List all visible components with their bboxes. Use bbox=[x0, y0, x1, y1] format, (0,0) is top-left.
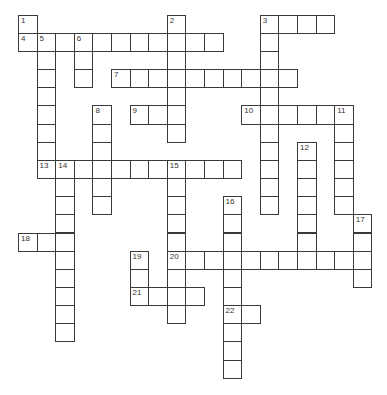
crossword-cell[interactable] bbox=[55, 287, 75, 306]
crossword-cell[interactable] bbox=[148, 105, 168, 124]
crossword-cell[interactable] bbox=[204, 251, 224, 270]
crossword-cell[interactable] bbox=[92, 178, 112, 197]
crossword-cell[interactable] bbox=[204, 33, 224, 52]
crossword-cell[interactable] bbox=[260, 196, 280, 215]
crossword-cell[interactable] bbox=[92, 124, 112, 143]
crossword-cell[interactable] bbox=[55, 214, 75, 233]
crossword-cell[interactable] bbox=[260, 142, 280, 161]
crossword-cell[interactable] bbox=[167, 124, 187, 143]
crossword-cell[interactable] bbox=[185, 287, 205, 306]
crossword-cell[interactable] bbox=[223, 287, 243, 306]
crossword-cell[interactable] bbox=[55, 269, 75, 288]
crossword-cell[interactable] bbox=[167, 196, 187, 215]
crossword-cell[interactable] bbox=[260, 51, 280, 70]
crossword-cell[interactable] bbox=[167, 233, 187, 252]
crossword-cell[interactable] bbox=[297, 251, 317, 270]
crossword-cell[interactable]: 6 bbox=[74, 33, 94, 52]
crossword-cell[interactable] bbox=[223, 341, 243, 360]
crossword-cell[interactable] bbox=[241, 251, 261, 270]
crossword-cell[interactable] bbox=[185, 160, 205, 179]
crossword-cell[interactable] bbox=[334, 251, 354, 270]
crossword-cell[interactable] bbox=[55, 305, 75, 324]
crossword-cell[interactable] bbox=[297, 105, 317, 124]
crossword-cell[interactable] bbox=[223, 251, 243, 270]
crossword-cell[interactable] bbox=[148, 287, 168, 306]
crossword-cell[interactable] bbox=[297, 15, 317, 34]
crossword-cell[interactable] bbox=[260, 105, 280, 124]
crossword-cell[interactable] bbox=[37, 142, 57, 161]
crossword-cell[interactable] bbox=[37, 87, 57, 106]
crossword-cell[interactable] bbox=[260, 87, 280, 106]
crossword-cell[interactable] bbox=[167, 69, 187, 88]
crossword-cell[interactable] bbox=[185, 69, 205, 88]
crossword-cell[interactable] bbox=[353, 233, 373, 252]
crossword-cell[interactable] bbox=[37, 69, 57, 88]
crossword-cell[interactable] bbox=[111, 33, 131, 52]
crossword-cell[interactable] bbox=[185, 33, 205, 52]
crossword-cell[interactable] bbox=[223, 360, 243, 379]
crossword-cell[interactable] bbox=[223, 233, 243, 252]
crossword-cell[interactable] bbox=[37, 124, 57, 143]
crossword-cell[interactable] bbox=[37, 51, 57, 70]
crossword-cell[interactable] bbox=[297, 196, 317, 215]
crossword-cell[interactable] bbox=[241, 305, 261, 324]
crossword-cell[interactable] bbox=[260, 251, 280, 270]
crossword-cell[interactable]: 12 bbox=[297, 142, 317, 161]
crossword-cell[interactable] bbox=[297, 178, 317, 197]
crossword-cell[interactable]: 22 bbox=[223, 305, 243, 324]
crossword-cell[interactable]: 1 bbox=[18, 15, 38, 34]
crossword-cell[interactable] bbox=[148, 33, 168, 52]
crossword-cell[interactable] bbox=[167, 87, 187, 106]
crossword-cell[interactable]: 3 bbox=[260, 15, 280, 34]
crossword-cell[interactable] bbox=[334, 178, 354, 197]
crossword-cell[interactable] bbox=[148, 69, 168, 88]
crossword-cell[interactable] bbox=[278, 251, 298, 270]
crossword-cell[interactable] bbox=[223, 160, 243, 179]
crossword-cell[interactable] bbox=[260, 33, 280, 52]
crossword-cell[interactable] bbox=[297, 214, 317, 233]
crossword-cell[interactable] bbox=[92, 160, 112, 179]
crossword-cell[interactable]: 20 bbox=[167, 251, 187, 270]
crossword-cell[interactable] bbox=[167, 178, 187, 197]
crossword-cell[interactable] bbox=[223, 69, 243, 88]
crossword-cell[interactable] bbox=[260, 160, 280, 179]
crossword-cell[interactable]: 14 bbox=[55, 160, 75, 179]
crossword-cell[interactable] bbox=[167, 214, 187, 233]
crossword-cell[interactable] bbox=[37, 233, 57, 252]
crossword-cell[interactable] bbox=[55, 233, 75, 252]
crossword-cell[interactable] bbox=[334, 196, 354, 215]
crossword-cell[interactable] bbox=[278, 105, 298, 124]
crossword-cell[interactable] bbox=[297, 233, 317, 252]
crossword-cell[interactable] bbox=[74, 51, 94, 70]
crossword-cell[interactable]: 13 bbox=[37, 160, 57, 179]
crossword-cell[interactable] bbox=[130, 160, 150, 179]
crossword-cell[interactable] bbox=[37, 105, 57, 124]
crossword-cell[interactable] bbox=[223, 214, 243, 233]
crossword-cell[interactable] bbox=[185, 251, 205, 270]
crossword-cell[interactable] bbox=[278, 69, 298, 88]
crossword-cell[interactable] bbox=[241, 69, 261, 88]
crossword-cell[interactable] bbox=[55, 323, 75, 342]
crossword-cell[interactable]: 16 bbox=[223, 196, 243, 215]
crossword-cell[interactable] bbox=[167, 51, 187, 70]
crossword-cell[interactable] bbox=[167, 287, 187, 306]
crossword-cell[interactable] bbox=[167, 269, 187, 288]
crossword-cell[interactable] bbox=[204, 160, 224, 179]
crossword-cell[interactable]: 8 bbox=[92, 105, 112, 124]
crossword-cell[interactable] bbox=[353, 269, 373, 288]
crossword-cell[interactable] bbox=[278, 15, 298, 34]
crossword-cell[interactable] bbox=[260, 69, 280, 88]
crossword-cell[interactable] bbox=[55, 33, 75, 52]
crossword-cell[interactable] bbox=[297, 160, 317, 179]
crossword-cell[interactable] bbox=[111, 160, 131, 179]
crossword-cell[interactable] bbox=[55, 251, 75, 270]
crossword-cell[interactable] bbox=[130, 33, 150, 52]
crossword-cell[interactable] bbox=[334, 142, 354, 161]
crossword-cell[interactable] bbox=[55, 178, 75, 197]
crossword-cell[interactable] bbox=[92, 33, 112, 52]
crossword-cell[interactable] bbox=[130, 69, 150, 88]
crossword-cell[interactable]: 9 bbox=[130, 105, 150, 124]
crossword-cell[interactable]: 21 bbox=[130, 287, 150, 306]
crossword-cell[interactable] bbox=[167, 305, 187, 324]
crossword-cell[interactable]: 5 bbox=[37, 33, 57, 52]
